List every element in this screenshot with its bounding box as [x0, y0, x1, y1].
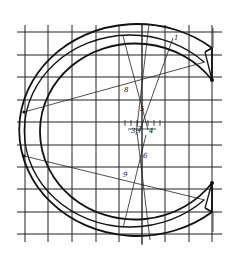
point-marker [22, 154, 25, 157]
letter-c-construction-diagram: 8 5 3 2 4 6 9 1 [0, 0, 237, 259]
label-3: 3 [131, 127, 136, 135]
label-1: 1 [174, 34, 178, 42]
label-2: 2 [136, 125, 142, 133]
upper-diagonal-construction [24, 62, 205, 112]
bottom-terminal-edge [205, 208, 212, 212]
point-marker [210, 78, 214, 82]
label-6: 6 [143, 152, 148, 160]
middle-contour [24, 35, 204, 227]
label-5: 5 [140, 105, 145, 113]
label-4: 4 [148, 127, 153, 135]
radial-line-1 [123, 36, 148, 130]
label-8: 8 [124, 86, 129, 94]
radial-line-3 [139, 38, 173, 133]
label-9: 9 [123, 171, 128, 179]
point-marker [210, 181, 214, 185]
top-terminal-edge [205, 48, 212, 52]
radial-line-4 [123, 135, 146, 228]
construction-grid [17, 25, 222, 244]
lower-diagonal-construction [24, 156, 205, 200]
point-marker [22, 110, 25, 113]
construction-labels: 8 5 3 2 4 6 9 1 [123, 34, 178, 179]
inner-contour [40, 44, 212, 220]
